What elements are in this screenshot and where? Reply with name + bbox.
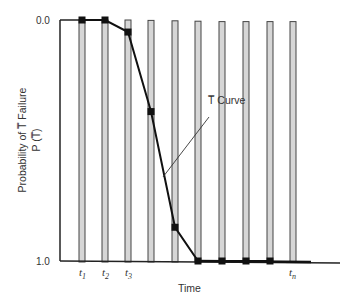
time-interval-bars [79,20,296,262]
time-bar [290,22,296,262]
y-tick-bottom: 1.0 [36,256,50,267]
data-point-marker [102,17,109,24]
x-tick-t2: t2 [102,266,109,281]
time-bar [102,20,108,262]
time-bar [125,20,131,262]
chart: T̅ Curve 0.0 1.0 t1 t2 t3 tn Time Probab… [0,0,358,305]
annotation-leader [163,117,209,177]
saturated-curve-segment [198,261,311,262]
time-bar [148,20,154,262]
y-tick-top: 0.0 [36,15,50,26]
data-point-marker [148,108,155,115]
y-axis-label: Probability of T̅ Failure [16,87,28,192]
time-bar [219,22,225,262]
x-tick-tn: tn [289,266,296,281]
x-tick-t3: t3 [125,266,132,281]
data-point-marker [125,29,132,36]
time-bar [79,20,85,262]
data-point-marker [172,224,179,231]
data-point-marker [79,17,86,24]
y-axis-label-formula: P (T̅) [30,128,42,151]
x-tick-t1: t1 [79,266,86,281]
time-bar [195,21,201,262]
time-bar [243,22,249,262]
time-bar [267,22,273,262]
curve-annotation: T̅ Curve [207,94,245,106]
x-axis-label: Time [178,282,201,294]
